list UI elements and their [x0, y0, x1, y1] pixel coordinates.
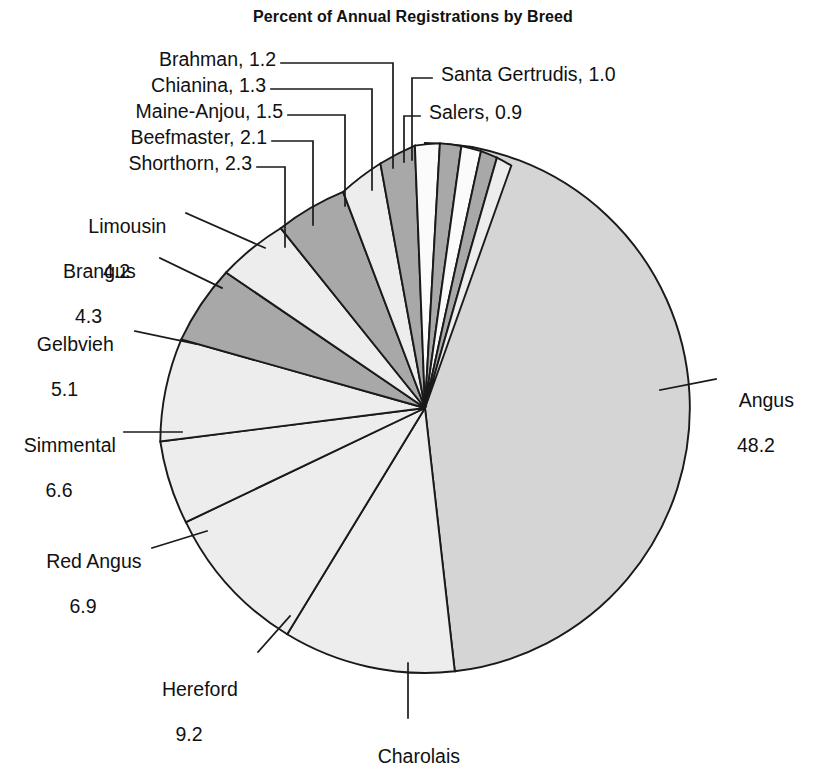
- label-maine-anjou: Maine-Anjou, 1.5: [0, 100, 283, 123]
- label-limousin-name: Limousin: [88, 215, 166, 237]
- label-angus: Angus 48.2: [706, 366, 806, 502]
- label-beefmaster: Beefmaster, 2.1: [0, 126, 267, 149]
- label-red-angus-value: 6.9: [18, 595, 148, 618]
- label-charolais: Charolais: [343, 722, 473, 767]
- label-gelbvieh-name: Gelbvieh: [37, 333, 114, 355]
- label-gelbvieh-value: 5.1: [0, 378, 131, 401]
- label-angus-name: Angus: [739, 389, 794, 411]
- leader-line-maine-anjou: [288, 115, 345, 206]
- label-santa-gertrudis: Santa Gertrudis, 1.0: [441, 63, 616, 86]
- leader-line-chianina: [271, 89, 372, 190]
- label-brahman: Brahman, 1.2: [0, 48, 276, 71]
- label-simmental-value: 6.6: [0, 479, 124, 502]
- label-red-angus: Red Angus 6.9: [18, 527, 148, 663]
- label-red-angus-name: Red Angus: [46, 550, 141, 572]
- label-hereford-name: Hereford: [162, 678, 238, 700]
- label-brangus-name: Brangus: [63, 260, 136, 282]
- label-angus-value: 48.2: [706, 434, 806, 457]
- leader-line-limousin: [186, 213, 265, 248]
- label-simmental-name: Simmental: [24, 434, 116, 456]
- label-charolais-name: Charolais: [378, 745, 460, 767]
- label-hereford-value: 9.2: [124, 723, 254, 746]
- label-chianina: Chianina, 1.3: [0, 74, 266, 97]
- label-shorthorn: Shorthorn, 2.3: [0, 152, 252, 175]
- label-salers: Salers, 0.9: [429, 101, 522, 124]
- label-hereford: Hereford 9.2: [124, 655, 254, 767]
